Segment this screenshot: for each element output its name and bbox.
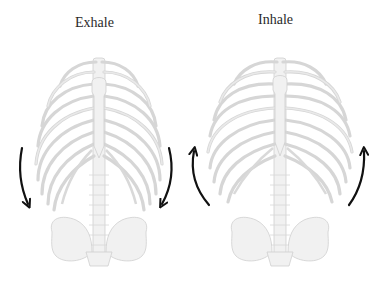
- exhale-right-down-arrow-icon: [162, 148, 172, 204]
- exhale-left-down-arrow-icon: [20, 148, 28, 204]
- inhale-right-up-arrow-icon: [349, 151, 364, 205]
- pelvis-left-icon: [231, 217, 272, 261]
- pelvis-right-icon: [288, 217, 329, 261]
- inhale-ribcage: [208, 58, 352, 266]
- ribcage-diagram: [0, 0, 389, 286]
- inhale-left-up-arrow-icon: [193, 151, 209, 205]
- pelvis-left-icon: [51, 217, 92, 261]
- exhale-ribcage: [36, 58, 162, 266]
- pelvis-right-icon: [106, 217, 147, 261]
- sternum-icon: [92, 78, 106, 159]
